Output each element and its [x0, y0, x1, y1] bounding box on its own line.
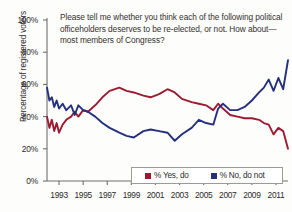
y-axis-ticks — [43, 20, 47, 181]
legend-item-no: % No, do not — [211, 171, 265, 180]
legend-swatch-no — [211, 173, 217, 179]
y-axis-tick-label: 100% — [4, 15, 38, 25]
chart-legend: % Yes, do % No, do not — [131, 167, 283, 184]
x-axis-tick-label: 2011 — [261, 190, 291, 200]
y-axis-tick-label: 60% — [4, 79, 38, 89]
y-axis-tick-label: 80% — [4, 47, 38, 57]
series-line — [47, 60, 288, 141]
legend-label-yes: % Yes, do — [154, 171, 189, 180]
data-series-lines — [47, 60, 288, 149]
legend-item-yes: % Yes, do — [145, 171, 189, 180]
legend-swatch-yes — [145, 173, 151, 179]
chart-container: Percentage of registered voters Please t… — [0, 0, 292, 212]
legend-label-no: % No, do not — [220, 171, 265, 180]
series-line — [47, 88, 288, 149]
y-axis-tick-label: 40% — [4, 112, 38, 122]
y-axis-tick-label: 0% — [4, 176, 38, 186]
y-axis-tick-label: 20% — [4, 144, 38, 154]
